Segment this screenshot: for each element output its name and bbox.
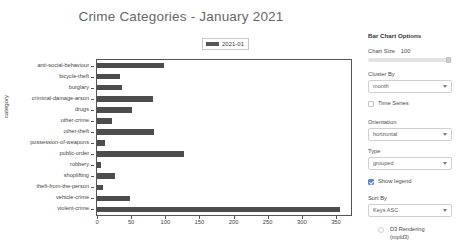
chevron-down-icon: [443, 133, 447, 136]
bar-row: [97, 93, 351, 104]
bar-criminal-damage-arson[interactable]: [97, 96, 153, 102]
sort-by-label: Sort By: [368, 195, 387, 201]
type-value: grouped: [373, 161, 394, 167]
chart-legend[interactable]: 2021-01: [202, 38, 249, 50]
bar-row: [97, 60, 351, 71]
type-label: Type: [368, 148, 381, 154]
legend-label-2021-01: 2021-01: [222, 41, 244, 47]
cluster-by-select[interactable]: month: [368, 80, 452, 93]
rendering-engine-note: D3 Rendering(mpld3): [390, 226, 425, 241]
chevron-down-icon: [443, 209, 447, 212]
bar-row: [97, 115, 351, 126]
chevron-down-icon: [443, 162, 447, 165]
bar-vehicle-crime[interactable]: [97, 196, 130, 202]
y-tick-label-shoplifting: shoplifting: [64, 173, 89, 179]
y-tick-label-other-theft: other-theft: [64, 129, 90, 135]
chart-size-value: 100: [397, 48, 411, 54]
bar-anti-social-behaviour[interactable]: [97, 63, 164, 69]
y-tick-mark: [91, 154, 94, 155]
bar-other-crime[interactable]: [97, 118, 112, 124]
orientation-value: horizontal: [373, 132, 397, 138]
chart-size-slider[interactable]: [368, 58, 452, 62]
y-tick-mark: [91, 198, 94, 199]
y-tick-label-public-order: public-order: [59, 151, 89, 157]
bar-row: [97, 138, 351, 149]
bar-row: [97, 82, 351, 93]
y-tick-label-criminal-damage-arson: criminal-damage-arson: [32, 96, 89, 102]
rendering-status-icon: [378, 227, 384, 233]
cluster-by-value: month: [373, 84, 389, 90]
x-tick-label-100: 100: [160, 220, 170, 226]
legend-swatch-2021-01: [206, 42, 219, 46]
x-tick-label-250: 250: [263, 220, 273, 226]
time-series-checkbox-row[interactable]: Time Series: [368, 101, 409, 107]
chevron-down-icon: [443, 85, 447, 88]
y-tick-mark: [91, 187, 94, 188]
bar-row: [97, 71, 351, 82]
y-tick-mark: [91, 99, 94, 100]
y-tick-label-violent-crime: violent-crime: [57, 206, 89, 212]
y-tick-label-drugs: drugs: [75, 107, 89, 113]
bar-row: [97, 204, 351, 215]
y-tick-mark: [91, 66, 94, 67]
y-tick-mark: [91, 132, 94, 133]
y-tick-label-theft-from-the-person: theft-from-the-person: [36, 184, 89, 190]
bar-row: [97, 126, 351, 137]
bar-row: [97, 104, 351, 115]
show-legend-checkbox[interactable]: [368, 179, 374, 185]
y-tick-label-robbery: robbery: [70, 162, 89, 168]
y-tick-label-vehicle-crime: vehicle-crime: [56, 195, 89, 201]
time-series-checkbox[interactable]: [368, 101, 374, 107]
bar-shoplifting[interactable]: [97, 173, 115, 179]
y-tick-label-burglary: burglary: [69, 85, 89, 91]
bar-violent-crime[interactable]: [97, 207, 340, 213]
x-tick-label-200: 200: [229, 220, 239, 226]
chart-size-slider-handle[interactable]: [446, 57, 451, 63]
y-tick-label-bicycle-theft: bicycle-theft: [59, 74, 89, 80]
bar-other-theft[interactable]: [97, 129, 154, 135]
y-tick-label-anti-social-behaviour: anti-social-behaviour: [37, 63, 89, 69]
bar-row: [97, 160, 351, 171]
bar-row: [97, 182, 351, 193]
show-legend-checkbox-row[interactable]: Show legend: [368, 179, 412, 185]
y-tick-mark: [91, 77, 94, 78]
chart-title: Crime Categories - January 2021: [0, 9, 362, 24]
app-root: Crime Categories - January 2021 2021-01 …: [0, 0, 459, 251]
y-tick-mark: [91, 165, 94, 166]
x-tick-label-350: 350: [331, 220, 341, 226]
bar-row: [97, 171, 351, 182]
y-tick-label-possession-of-weapons: possession-of-weapons: [30, 140, 89, 146]
show-legend-label: Show legend: [378, 179, 412, 185]
bar-row: [97, 149, 351, 160]
y-tick-mark: [91, 209, 94, 210]
y-axis-labels: anti-social-behaviourbicycle-theftburgla…: [0, 60, 94, 215]
bar-burglary[interactable]: [97, 85, 122, 91]
y-tick-mark: [91, 110, 94, 111]
y-tick-mark: [91, 121, 94, 122]
bars-layer: [97, 60, 351, 215]
bar-chart-options-panel: Bar Chart Options Chart Size 100 Cluster…: [362, 0, 459, 251]
y-tick-mark: [91, 176, 94, 177]
bar-robbery[interactable]: [97, 162, 101, 168]
y-tick-mark: [91, 143, 94, 144]
bar-bicycle-theft[interactable]: [97, 74, 120, 80]
orientation-label: Orientation: [368, 119, 396, 125]
bar-possession-of-weapons[interactable]: [97, 140, 105, 146]
orientation-select[interactable]: horizontal: [368, 128, 452, 141]
chart-size-label: Chart Size 100: [368, 48, 410, 54]
x-tick-label-50: 50: [128, 220, 134, 226]
x-tick-label-0: 0: [95, 220, 98, 226]
sort-by-value: Keys ASC: [373, 208, 398, 214]
panel-title: Bar Chart Options: [368, 32, 421, 39]
y-tick-label-other-crime: other-crime: [61, 118, 89, 124]
bar-theft-from-the-person[interactable]: [97, 185, 103, 191]
bar-public-order[interactable]: [97, 151, 184, 157]
x-tick-label-300: 300: [297, 220, 307, 226]
sort-by-select[interactable]: Keys ASC: [368, 204, 452, 217]
type-select[interactable]: grouped: [368, 157, 452, 170]
cluster-by-label: Cluster By: [368, 71, 395, 77]
bar-drugs[interactable]: [97, 107, 132, 113]
chart-panel: Crime Categories - January 2021 2021-01 …: [0, 0, 362, 251]
bar-row: [97, 193, 351, 204]
time-series-label: Time Series: [378, 101, 409, 107]
